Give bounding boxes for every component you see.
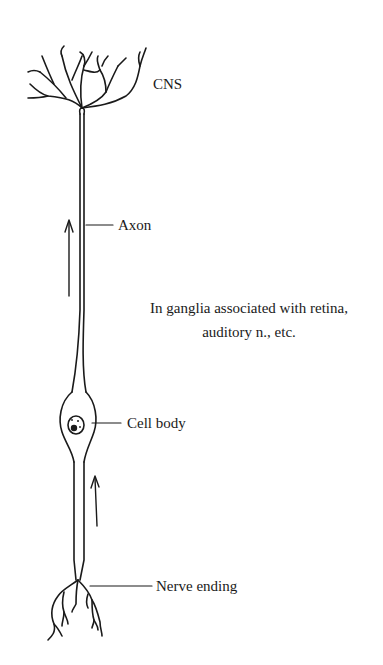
axon-label: Axon (118, 216, 151, 234)
nerve-ending-branches (48, 580, 102, 640)
cell-body-label: Cell body (127, 414, 186, 432)
nerve-ending-label: Nerve ending (156, 577, 237, 595)
ganglia-note-line-2: auditory n., etc. (118, 320, 380, 344)
ganglia-note-line-1: In ganglia associated with retina, (118, 296, 380, 320)
cns-label: CNS (153, 75, 182, 93)
ganglia-note: In ganglia associated with retina, audit… (118, 296, 380, 344)
dendrite-tree (28, 46, 146, 108)
peripheral-axon (74, 462, 84, 580)
lower-arrow (91, 476, 99, 526)
axon-shaft (72, 108, 86, 392)
upper-arrow (65, 220, 73, 296)
cell-body-shape (60, 392, 96, 462)
